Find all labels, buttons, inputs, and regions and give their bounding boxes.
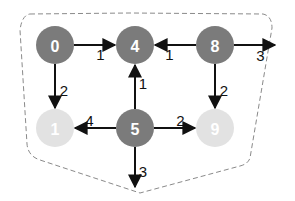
node-label: 8 bbox=[211, 38, 220, 55]
node-label: 9 bbox=[211, 121, 220, 138]
graph-node-9: 9 bbox=[196, 109, 234, 147]
graph-node-8: 8 bbox=[196, 26, 234, 64]
edge-weight-label: 2 bbox=[220, 82, 228, 99]
edge-weight-label: 1 bbox=[165, 46, 173, 63]
graph-node-0: 0 bbox=[36, 26, 74, 64]
node-label: 4 bbox=[131, 38, 140, 55]
edge-weight-label: 1 bbox=[139, 75, 147, 92]
node-label: 0 bbox=[51, 38, 60, 55]
node-label: 1 bbox=[51, 121, 60, 138]
graph-node-5: 5 bbox=[116, 109, 154, 147]
edge-weight-label: 2 bbox=[60, 82, 68, 99]
graph-node-4: 4 bbox=[116, 26, 154, 64]
graph-node-1: 1 bbox=[36, 109, 74, 147]
graph-diagram: 121321423 048159 bbox=[0, 0, 295, 201]
edge-weight-label: 3 bbox=[256, 47, 264, 64]
edge-weight-label: 2 bbox=[176, 112, 184, 129]
edge-weight-label: 3 bbox=[139, 163, 147, 180]
edge-weight-label: 1 bbox=[96, 46, 104, 63]
node-label: 5 bbox=[131, 121, 140, 138]
edge-weight-label: 4 bbox=[85, 112, 93, 129]
